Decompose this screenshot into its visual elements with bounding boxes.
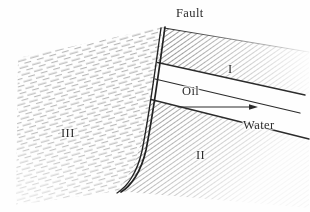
cross-section-drawing xyxy=(0,0,310,212)
figure-container: Fault Oil Water I II III xyxy=(0,0,310,212)
region-one xyxy=(158,28,310,96)
